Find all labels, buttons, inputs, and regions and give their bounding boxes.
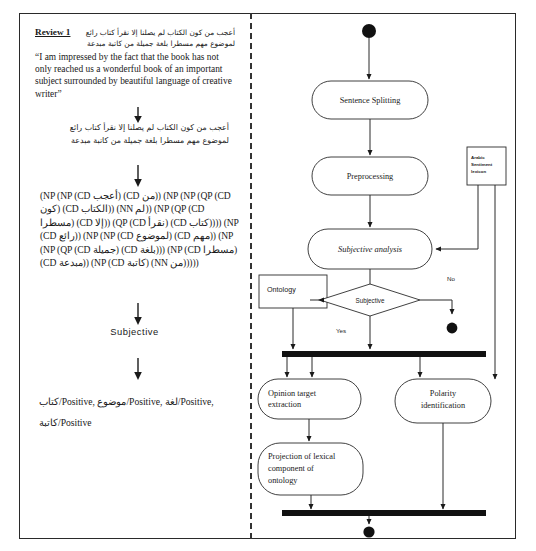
polarity-results-line-1: كتاب/Positive, موضوع/Positive, لغة/Posit… (39, 391, 244, 412)
node-projection-label-line-1: Projection of lexical (268, 452, 336, 461)
node-polarity-identification-label-line-1: Polarity (430, 389, 457, 398)
guard-label-yes: Yes (336, 327, 346, 334)
guard-label-no: No (447, 275, 455, 282)
node-projection-label-line-2: component of (268, 464, 314, 473)
initial-node (362, 24, 376, 38)
final-node-main (363, 526, 374, 537)
node-preprocessing-label: Preprocessing (347, 172, 394, 181)
node-opinion-target-extraction (258, 379, 361, 419)
review-arabic-text: أعجب من كون الكتاب لم يصلنا إلا نقرأ كتا… (86, 28, 235, 48)
review-english-text: “I am impressed by the fact that the boo… (35, 51, 235, 100)
node-opinion-target-label-line-2: extraction (268, 400, 302, 409)
edge-lexicon-to-subjective-analysis (436, 185, 478, 249)
right-activity-diagram-panel: Sentence Splitting Preprocessing Subject… (250, 13, 516, 539)
review-label: Review 1 (35, 27, 70, 38)
node-ontology-label: Ontology (267, 285, 296, 294)
review-block: Review 1 أعجب من كون الكتاب لم يصلنا إلا… (35, 27, 235, 100)
node-subjective-decision-label: Subjective (355, 297, 385, 305)
polarity-results-block: كتاب/Positive, موضوع/Positive, لغة/Posit… (39, 391, 244, 433)
arrow-parse-to-subjective (132, 303, 144, 325)
node-polarity-identification-label-line-2: identification (421, 401, 466, 410)
left-example-panel: Review 1 أعجب من كون الكتاب لم يصلنا إلا… (19, 13, 250, 539)
review-arabic-with-label: Review 1 أعجب من كون الكتاب لم يصلنا إلا… (35, 27, 235, 50)
lexicon-label-line-3: lexicon (471, 169, 486, 174)
polarity-results-line-2: كاتبة/Positive (39, 412, 244, 433)
node-opinion-target-label-line-1: Opinion target (268, 389, 317, 398)
node-sentence-splitting-label: Sentence Splitting (340, 96, 401, 105)
subjectivity-result-label: Subjective (19, 326, 250, 337)
edge-decision-no (420, 300, 452, 314)
activity-diagram: Sentence Splitting Preprocessing Subject… (250, 13, 516, 539)
final-node-no-branch (447, 323, 458, 334)
node-projection-label-line-3: ontology (268, 476, 298, 485)
lexicon-label-line-2: Sentiment (471, 162, 493, 167)
lexicon-label-line-1: Arabic (471, 155, 485, 160)
arrow-normalized-to-parse (132, 165, 144, 187)
join-bar (282, 510, 486, 516)
normalized-arabic-text: أعجب من كون الكتاب لم يصلنا إلا نقرأ كتا… (43, 121, 229, 147)
arrow-subjective-to-polarity (132, 358, 144, 380)
node-subjective-analysis-label: Subjective analysis (338, 245, 402, 254)
fork-bar (282, 351, 486, 357)
parse-tree-text: (NP (NP (CD أعجب) (CD من)) (NP (NP (QP (… (40, 189, 240, 269)
